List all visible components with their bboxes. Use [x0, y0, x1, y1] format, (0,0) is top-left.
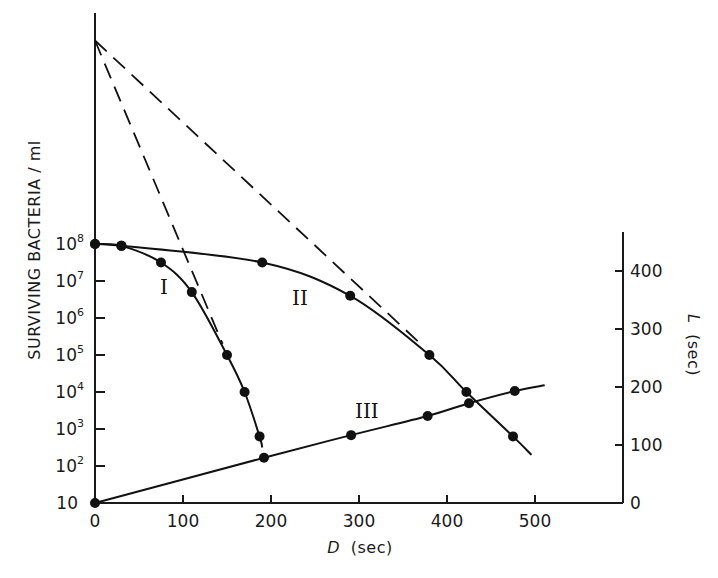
left-y-tick-label: 105: [55, 343, 84, 365]
right-y-tick-label: 200: [630, 377, 662, 397]
right-y-ticks: [615, 271, 623, 445]
data-point-marker: [116, 241, 126, 251]
x-axis-title-unit: (sec): [351, 538, 393, 557]
x-axis-title-var: D: [327, 538, 340, 557]
data-point-marker: [240, 387, 250, 397]
left-y-tick-label: 104: [55, 380, 84, 402]
data-point-marker: [259, 453, 269, 463]
right-y-tick-label: 100: [630, 435, 662, 455]
data-point-marker: [508, 431, 518, 441]
right-y-tick-labels: 0100200300400: [630, 261, 662, 513]
series-i-extrapolation: [95, 41, 223, 344]
y-axis-left-title: SURVIVING BACTERIA / ml: [25, 140, 44, 359]
right-y-tick-label: 400: [630, 261, 662, 281]
left-y-tick-label: 106: [55, 306, 84, 328]
data-point-marker: [156, 258, 166, 268]
data-point-marker: [255, 431, 265, 441]
series-i: [90, 239, 265, 448]
y-axis-right-title-unit: (sec): [684, 334, 703, 376]
x-axis-title: D (sec): [327, 538, 392, 557]
data-point-marker: [90, 498, 100, 508]
left-y-tick-label: 108: [55, 232, 84, 254]
x-tick-label: 500: [519, 511, 551, 531]
y-axis-right-title-var: L: [684, 314, 703, 323]
data-point-marker: [423, 411, 433, 421]
data-point-marker: [346, 430, 356, 440]
x-tick-label: 0: [90, 511, 101, 531]
x-tick-label: 100: [167, 511, 199, 531]
data-point-marker: [257, 258, 267, 268]
left-y-ticks: [95, 281, 105, 466]
data-point-marker: [222, 350, 232, 360]
right-y-tick-label: 300: [630, 319, 662, 339]
x-tick-labels: 0100200300400500: [90, 511, 552, 531]
left-y-tick-labels: 10102103104105106107108: [55, 232, 84, 513]
left-y-tick-label: 102: [55, 454, 84, 476]
data-point-marker: [464, 398, 474, 408]
series-layer: [90, 41, 545, 509]
x-ticks: [183, 495, 535, 503]
curve-label-II: II: [292, 286, 308, 310]
curve-label-I: I: [160, 275, 168, 299]
x-tick-label: 400: [431, 511, 463, 531]
data-point-marker: [187, 287, 197, 297]
data-point-marker: [90, 239, 100, 249]
left-y-tick-label: 103: [55, 417, 84, 439]
left-y-tick-label: 10: [56, 493, 78, 513]
axes: [95, 13, 623, 503]
series-ii-extrapolation: [95, 41, 421, 344]
series-i-line: [95, 244, 262, 448]
data-point-marker: [345, 291, 355, 301]
series-ii: [90, 239, 531, 455]
y-axis-right-title: L (sec): [684, 314, 703, 376]
x-tick-label: 200: [255, 511, 287, 531]
left-y-tick-label: 107: [55, 269, 84, 291]
data-point-marker: [461, 387, 471, 397]
data-point-marker: [424, 350, 434, 360]
data-point-marker: [510, 386, 520, 396]
curve-label-III: III: [355, 399, 379, 423]
series-ii-extrapolation-line: [95, 41, 421, 344]
right-y-tick-label: 0: [630, 493, 641, 513]
survival-chart: 0100200300400500 10102103104105106107108…: [0, 0, 718, 578]
x-tick-label: 300: [343, 511, 375, 531]
series-i-extrapolation-line: [95, 41, 223, 344]
series-iii: [90, 385, 545, 508]
